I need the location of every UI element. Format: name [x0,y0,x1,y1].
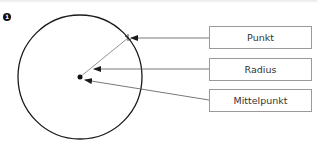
label-punkt: Punkt [209,26,312,49]
label-mittelpunkt: Mittelpunkt [209,89,312,112]
radius-line [80,38,128,77]
center-dot [78,75,83,80]
label-radius: Radius [209,58,312,81]
arrow-mittelpunkt [85,80,209,100]
